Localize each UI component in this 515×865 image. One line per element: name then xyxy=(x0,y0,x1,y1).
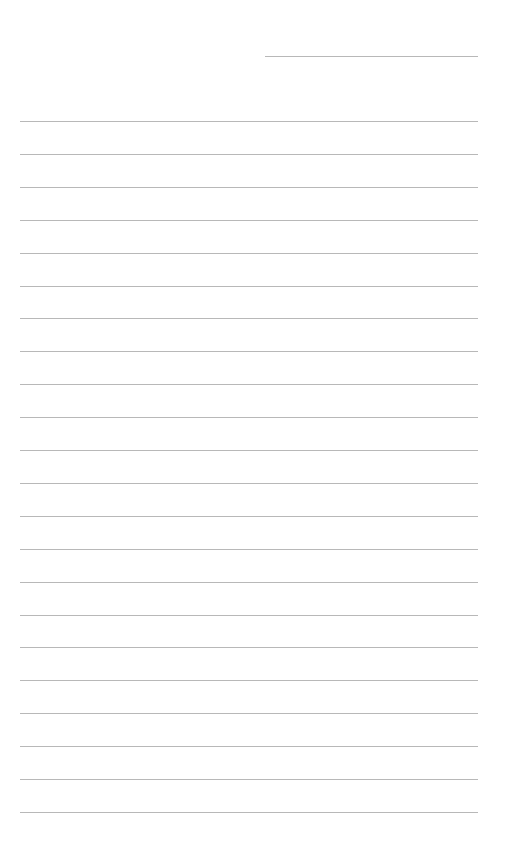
ruled-line xyxy=(20,615,478,616)
ruled-line xyxy=(20,779,478,780)
ruled-line xyxy=(20,516,478,517)
ruled-line xyxy=(20,647,478,648)
ruled-line xyxy=(20,121,478,122)
ruled-line xyxy=(20,154,478,155)
ruled-line xyxy=(20,713,478,714)
ruled-line xyxy=(20,483,478,484)
ruled-line xyxy=(20,450,478,451)
ruled-line xyxy=(20,286,478,287)
ruled-line xyxy=(20,680,478,681)
ruled-line xyxy=(20,318,478,319)
ruled-line xyxy=(20,582,478,583)
ruled-line xyxy=(20,417,478,418)
ruled-line xyxy=(20,220,478,221)
ruled-line xyxy=(20,384,478,385)
ruled-line xyxy=(20,549,478,550)
ruled-line xyxy=(20,253,478,254)
header-line xyxy=(265,56,478,57)
ruled-line xyxy=(20,746,478,747)
ruled-line xyxy=(20,351,478,352)
ruled-line xyxy=(20,187,478,188)
ruled-line xyxy=(20,812,478,813)
